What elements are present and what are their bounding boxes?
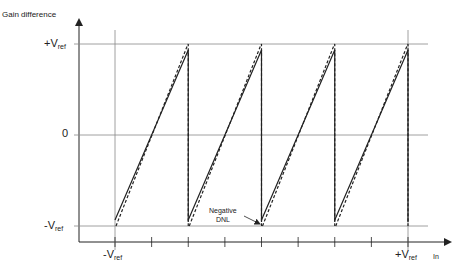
- annotation-negative-dnl-line2: DNL: [216, 216, 230, 223]
- x-label-plus-vref: +Vref: [395, 248, 417, 261]
- x-label-minus-vref: -Vref: [103, 248, 122, 261]
- y-label-zero: 0: [62, 127, 68, 139]
- x-axis-label: In: [433, 253, 439, 260]
- annotation-negative-dnl-line1: Negative: [209, 207, 237, 215]
- annotation-arrow: [244, 216, 258, 223]
- y-label-plus-vref: +Vref: [44, 37, 66, 50]
- y-label-minus-vref: -Vref: [44, 219, 63, 232]
- y-axis-label: Gain difference: [2, 10, 57, 19]
- gain-difference-diagram: Gain difference In +Vref 0 -Vref -Vref +…: [0, 0, 467, 271]
